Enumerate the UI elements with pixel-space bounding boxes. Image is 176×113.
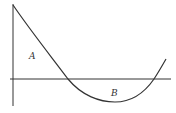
area-diagram: A B bbox=[0, 0, 176, 113]
diagram-canvas: A B bbox=[0, 0, 176, 113]
function-curve bbox=[13, 5, 166, 102]
region-a-label: A bbox=[28, 51, 36, 61]
region-b-label: B bbox=[110, 88, 118, 98]
